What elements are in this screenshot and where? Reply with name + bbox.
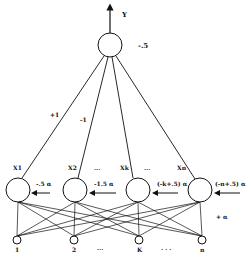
hidden-label-xk: Xk — [120, 164, 130, 171]
output-bias-label: -.5 — [138, 41, 148, 50]
hidden-node-x2 — [63, 178, 87, 202]
hidden-label-xn: Xn — [177, 164, 187, 171]
output-node — [98, 33, 122, 57]
input-label-n: n — [200, 246, 205, 253]
threshold-label-xn: (-n+.5) α — [215, 180, 246, 187]
neural-network-diagram: Y -.5 +1 -1 X1 X2 Xk Xn ... ... — [0, 0, 247, 254]
input-label-1: 1 — [15, 246, 19, 253]
input-node-1 — [13, 236, 21, 244]
weight-label-minus-one: -1 — [80, 116, 87, 123]
input-node-n — [198, 236, 206, 244]
hidden-node-x1 — [6, 178, 30, 202]
hidden-node-xk — [126, 178, 150, 202]
input-hidden-edges — [17, 202, 202, 236]
input-ellipsis-1: ... — [97, 244, 103, 251]
threshold-label-x2: -1.5 α — [94, 180, 114, 187]
hidden-node-xn — [188, 178, 212, 202]
input-weight-label: + α — [216, 213, 228, 220]
output-hidden-edges — [22, 56, 195, 179]
output-label: Y — [121, 10, 128, 19]
input-label-2: 2 — [72, 246, 76, 253]
threshold-label-x1: -.5 α — [36, 180, 52, 187]
hidden-ellipsis-2: ... — [144, 164, 150, 171]
input-node-2 — [70, 236, 78, 244]
input-node-k — [135, 236, 143, 244]
hidden-ellipsis-1: ... — [94, 164, 100, 171]
input-ellipsis-2: . . . — [161, 244, 171, 251]
weight-label-plus-one: +1 — [50, 111, 59, 118]
threshold-label-xk: (-k+.5) α — [157, 180, 188, 187]
hidden-label-x2: X2 — [68, 164, 77, 171]
hidden-label-x1: X1 — [13, 164, 22, 171]
input-label-k: K — [137, 246, 143, 253]
